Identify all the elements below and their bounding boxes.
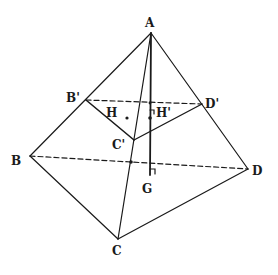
label-H: H (106, 106, 117, 120)
label-B: B (11, 154, 21, 168)
edge-AC (118, 33, 151, 239)
edge-AB (30, 33, 151, 156)
point-intersection-BD-AC (129, 160, 133, 164)
label-D: D (252, 164, 262, 178)
label-G: G (142, 182, 152, 196)
label-C-prime: C' (112, 138, 125, 152)
pyramid-diagram: A B C D B' C' D' H H' G (0, 0, 278, 275)
point-intersection-B1D1 (149, 102, 152, 105)
diagram-svg: A B C D B' C' D' H H' G (0, 0, 278, 275)
label-D-prime: D' (205, 97, 219, 111)
edge-BC (30, 156, 118, 239)
edge-B1D1-hidden (86, 100, 202, 104)
edge-AD (151, 33, 248, 169)
label-C: C (112, 244, 122, 258)
label-A: A (144, 16, 155, 30)
label-H-prime: H' (156, 106, 171, 120)
label-B-prime: B' (66, 91, 80, 105)
point-H1 (148, 116, 152, 120)
edge-CD (118, 169, 248, 239)
point-H (125, 116, 128, 119)
edge-BD-hidden (30, 156, 248, 169)
